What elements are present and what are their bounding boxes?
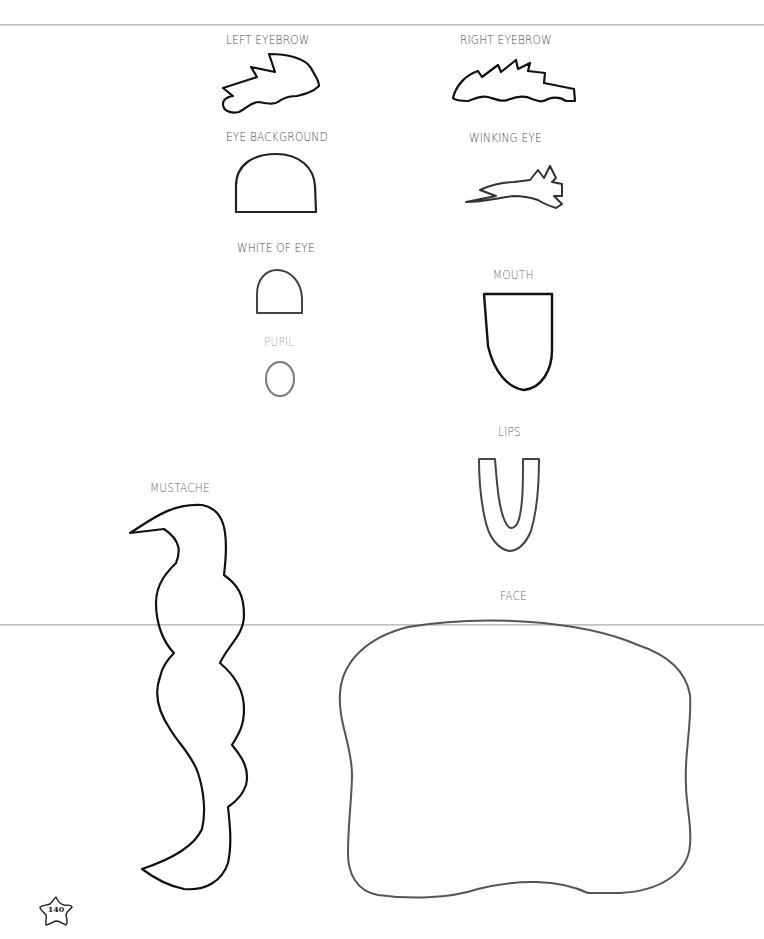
page-number: 140	[38, 904, 74, 914]
top-fold-line	[0, 24, 764, 26]
left-eyebrow-shape	[215, 50, 325, 120]
template-page: LEFT EYEBROW RIGHT EYEBROW EYE BACKGROUN…	[0, 0, 764, 939]
mustache-shape	[120, 495, 280, 905]
pupil-shape	[262, 359, 302, 403]
winking-eye-shape	[462, 160, 562, 220]
eye-background-shape	[232, 150, 322, 220]
pupil-label: PUPIL	[264, 335, 294, 349]
lips-label: LIPS	[498, 425, 521, 439]
white-of-eye-shape	[253, 266, 313, 326]
mouth-label: MOUTH	[493, 268, 534, 282]
page-number-badge: 140	[38, 895, 74, 927]
left-eyebrow-label: LEFT EYEBROW	[226, 33, 309, 47]
right-eyebrow-label: RIGHT EYEBROW	[460, 33, 552, 47]
face-shape	[338, 615, 718, 905]
mustache-label: MUSTACHE	[150, 481, 210, 495]
mouth-shape	[480, 290, 560, 400]
winking-eye-label: WINKING EYE	[469, 131, 542, 145]
face-label: FACE	[500, 589, 527, 603]
right-eyebrow-shape	[448, 55, 588, 115]
white-of-eye-label: WHITE OF EYE	[237, 241, 315, 255]
lips-shape	[475, 455, 555, 565]
eye-background-label: EYE BACKGROUND	[226, 130, 328, 144]
